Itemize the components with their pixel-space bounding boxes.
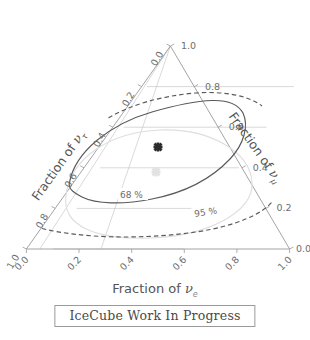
tick-label-right: 0.8 (205, 81, 220, 92)
tick-label-left: 0.8 (33, 212, 50, 231)
grid-line (40, 46, 171, 249)
watermark-box: IceCube Work In Progress (54, 305, 255, 327)
right-axis-title: Fraction of νμ (224, 109, 286, 186)
tick-label-bottom: 0.4 (117, 254, 135, 272)
tick-label-right: 1.0 (181, 40, 196, 51)
tick-mark (290, 247, 294, 249)
tick-label-right: 0.2 (277, 202, 292, 213)
bottom-axis-title-subscript: e (193, 290, 198, 299)
tick-label-bottom: 0.8 (223, 254, 241, 272)
watermark-text: IceCube Work In Progress (69, 308, 240, 323)
tick-mark (242, 166, 246, 168)
tick-mark (80, 166, 84, 168)
contour-labels: 68 % 95 % (118, 188, 223, 219)
tick-mark (109, 125, 113, 127)
bottom-axis-title: Fraction of νe (0, 281, 310, 299)
tick-label-left: 0.4 (91, 130, 108, 149)
tick-label-bottom: 1.0 (275, 254, 293, 272)
tick-label-bottom: 0.6 (170, 254, 188, 272)
bottom-axis-title-symbol: ν (185, 281, 193, 296)
markers (152, 143, 163, 177)
tick-label-left: 0.6 (62, 171, 79, 190)
contour-68-label: 68 % (120, 190, 143, 200)
bottom-tick-labels: 0.0 0.2 0.4 0.6 0.8 1.0 (12, 254, 294, 272)
contour-95-lower (42, 202, 272, 237)
bottom-axis-title-prefix: Fraction of (112, 281, 185, 296)
tick-label-right: 0.0 (296, 243, 310, 254)
tick-mark (167, 44, 171, 46)
tick-mark (23, 247, 27, 249)
secondary-faint-marker (152, 168, 161, 177)
right-axis-title-text: Fraction of νμ (224, 109, 286, 186)
tick-label-bottom: 0.2 (65, 254, 83, 272)
tick-mark (138, 85, 142, 87)
ternary-plot-root: 68 % 95 % 0.0 0.2 0.4 0.6 0.8 1.0 0.0 0.… (0, 0, 310, 340)
best-fit-marker (154, 143, 163, 152)
tick-label-left: 0.2 (120, 90, 137, 109)
tick-mark (51, 206, 55, 208)
left-tick-labels: 0.0 0.2 0.4 0.6 0.8 1.0 (4, 49, 165, 271)
tick-label-left: 0.0 (148, 49, 165, 68)
right-tick-labels: 1.0 0.8 0.6 0.4 0.2 0.0 (181, 40, 310, 254)
tick-mark (170, 44, 174, 46)
